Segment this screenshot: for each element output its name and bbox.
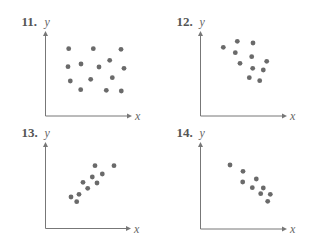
y-axis-arrow-icon	[43, 142, 48, 147]
scatter-plot-11: 11.yx	[22, 14, 142, 123]
data-point	[258, 191, 263, 196]
scatter-plot-grid: 11.yx12.yx13.yx14.yx	[0, 0, 309, 245]
x-axis-arrow-icon	[282, 227, 287, 232]
data-point	[233, 50, 238, 55]
data-point	[251, 41, 256, 46]
scatter-plot-13: 13.yx	[22, 125, 141, 236]
data-point	[93, 163, 98, 168]
y-axis-arrow-icon	[43, 31, 48, 36]
data-point	[100, 172, 105, 177]
x-axis-arrow-icon	[127, 114, 132, 119]
x-axis-label: x	[289, 222, 296, 236]
data-point	[88, 77, 93, 82]
data-point	[261, 186, 266, 191]
data-point	[228, 163, 233, 168]
y-axis-label: y	[199, 15, 206, 29]
data-point	[91, 46, 96, 51]
scatter-plot-14: 14.yx	[177, 125, 297, 236]
data-point	[78, 87, 83, 92]
y-axis-arrow-icon	[198, 31, 203, 36]
data-point	[247, 75, 252, 80]
data-point	[241, 169, 246, 174]
y-axis-label: y	[199, 126, 206, 140]
data-point	[221, 45, 226, 50]
data-point	[107, 58, 112, 63]
plot-number-label: 14.	[177, 125, 193, 140]
data-point	[240, 180, 245, 185]
data-point	[110, 75, 115, 80]
x-axis-label: x	[133, 222, 140, 236]
data-point	[69, 195, 74, 200]
data-point	[79, 62, 84, 67]
data-point	[238, 61, 243, 66]
x-axis-arrow-icon	[282, 114, 287, 119]
data-point	[85, 186, 90, 191]
data-point	[81, 180, 86, 185]
x-axis-label: x	[289, 109, 296, 123]
data-point	[104, 88, 109, 93]
data-point	[66, 46, 71, 51]
x-axis-label: x	[134, 109, 141, 123]
data-point	[97, 65, 102, 70]
data-point	[112, 163, 117, 168]
plot-number-label: 13.	[22, 125, 38, 140]
data-point	[77, 192, 82, 197]
data-point	[74, 199, 79, 204]
data-point	[261, 68, 266, 73]
data-point	[66, 64, 71, 69]
x-axis-arrow-icon	[126, 226, 131, 231]
data-point	[250, 66, 255, 71]
plot-number-label: 12.	[177, 14, 193, 29]
scatter-plot-12: 12.yx	[177, 14, 297, 123]
data-point	[265, 199, 270, 204]
y-axis-label: y	[44, 126, 51, 140]
data-point	[119, 89, 124, 94]
data-point	[250, 185, 255, 190]
data-point	[68, 79, 73, 84]
data-point	[122, 66, 127, 71]
y-axis-arrow-icon	[198, 142, 203, 147]
data-point	[268, 192, 273, 197]
data-point	[249, 54, 254, 59]
data-point	[235, 39, 240, 44]
y-axis-label: y	[44, 15, 51, 29]
data-point	[264, 59, 269, 64]
plot-number-label: 11.	[22, 14, 38, 29]
data-point	[119, 47, 124, 52]
data-point	[254, 177, 259, 182]
data-point	[90, 175, 95, 180]
data-point	[257, 78, 262, 83]
data-point	[95, 181, 100, 186]
